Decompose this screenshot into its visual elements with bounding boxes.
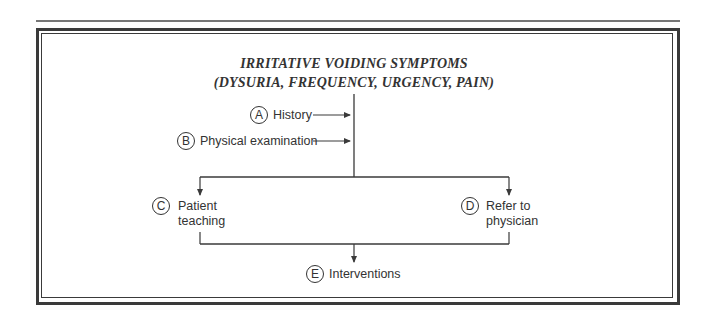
node-e-badge: E — [306, 265, 324, 283]
node-c-label-line1: Patient — [178, 199, 217, 214]
node-c-label-line2: teaching — [178, 214, 225, 229]
node-a-label: History — [273, 108, 312, 123]
node-c-badge: C — [152, 197, 170, 215]
node-d-badge: D — [461, 197, 479, 215]
node-d-label-line2: physician — [486, 214, 538, 229]
node-a-badge: A — [250, 106, 268, 124]
node-b-badge: B — [177, 132, 195, 150]
node-e-label: Interventions — [329, 267, 401, 282]
node-d-label-line1: Refer to — [486, 199, 530, 214]
node-b-label: Physical examination — [200, 134, 317, 149]
